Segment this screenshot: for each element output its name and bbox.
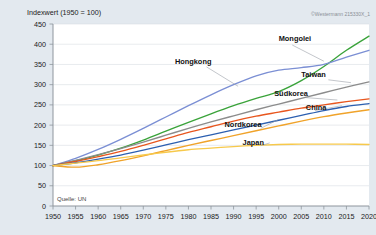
x-tick-label: 2010 (316, 212, 332, 221)
x-tick-label: 1965 (113, 212, 129, 221)
series-label-hongkong: Hongkong (175, 57, 212, 66)
series-label-mongolei: Mongolei (279, 34, 311, 43)
x-axis-tick-labels: 1950195519601965197019751980198519901995… (45, 212, 376, 221)
x-tick-label: 1990 (226, 212, 242, 221)
plot-area-background (53, 24, 369, 206)
y-tick-label: 250 (34, 100, 46, 109)
series-label-china: China (306, 103, 327, 112)
y-tick-label: 0 (42, 202, 46, 211)
x-tick-label: 1980 (180, 212, 196, 221)
x-tick-label: 2015 (338, 212, 354, 221)
x-tick-label: 1975 (158, 212, 174, 221)
y-tick-label: 350 (34, 60, 46, 69)
y-tick-label: 450 (34, 20, 46, 29)
y-tick-label: 50 (38, 181, 46, 190)
x-tick-label: 2020 (361, 212, 376, 221)
copyright-note: ©Westermann 215330X_1 (311, 11, 370, 17)
y-tick-label: 400 (34, 40, 46, 49)
y-tick-label: 150 (34, 141, 46, 150)
series-label-südkorea: Südkorea (274, 89, 309, 98)
x-tick-label: 2005 (293, 212, 309, 221)
x-tick-label: 1970 (135, 212, 151, 221)
x-tick-label: 2000 (271, 212, 287, 221)
series-label-japan: Japan (243, 138, 265, 147)
series-label-taiwan: Taiwan (301, 70, 326, 79)
x-tick-label: 1950 (45, 212, 61, 221)
y-tick-label: 200 (34, 121, 46, 130)
x-tick-label: 1985 (203, 212, 219, 221)
series-label-nordkorea: Nordkorea (225, 120, 263, 129)
y-axis-title: Indexwert (1950 = 100) (27, 8, 101, 17)
x-tick-label: 1995 (248, 212, 264, 221)
x-tick-label: 1955 (68, 212, 84, 221)
x-tick-label: 1960 (90, 212, 106, 221)
y-tick-label: 300 (34, 80, 46, 89)
chart-container: 050100150200250300350400450 195019551960… (0, 0, 376, 235)
source-note: Quelle: UN (57, 196, 86, 202)
y-tick-label: 100 (34, 161, 46, 170)
index-line-chart: 050100150200250300350400450 195019551960… (0, 0, 376, 235)
